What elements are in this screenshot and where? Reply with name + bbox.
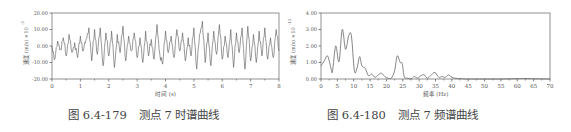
x-tick-label: 60 bbox=[514, 83, 521, 89]
caption-spectrum: 图 6.4-180测点 7 频谱曲线 bbox=[327, 106, 478, 122]
y-axis-label: 速度 (m/s) ×10 bbox=[22, 27, 30, 65]
x-tick-label: 7 bbox=[249, 83, 253, 89]
x-tick-label: 5 bbox=[336, 83, 340, 89]
caption-text: 测点 7 频谱曲线 bbox=[398, 108, 479, 122]
caption-time-history: 图 6.4-179测点 7 时谱曲线 bbox=[68, 106, 219, 122]
y-tick-label: 4.00 bbox=[306, 10, 317, 16]
data-line bbox=[52, 21, 279, 69]
x-tick-label: 2 bbox=[107, 83, 111, 89]
y-tick-label: 10.00 bbox=[34, 26, 48, 32]
x-tick-label: 3 bbox=[135, 83, 139, 89]
y-tick-label: 3.00 bbox=[306, 26, 317, 32]
spectrum-plot: 05101520253035404550556065700.001.002.00… bbox=[285, 0, 571, 100]
data-line bbox=[321, 29, 550, 79]
x-tick-label: 70 bbox=[547, 83, 554, 89]
caption-number: 图 6.4-179 bbox=[68, 108, 127, 122]
y-tick-label: -10.00 bbox=[32, 59, 48, 65]
spectrum-chart: 05101520253035404550556065700.001.002.00… bbox=[285, 0, 571, 100]
x-tick-label: 55 bbox=[497, 83, 504, 89]
plot-frame bbox=[321, 13, 550, 79]
y-tick-label: -20.00 bbox=[32, 76, 48, 82]
x-tick-label: 50 bbox=[481, 83, 488, 89]
x-tick-label: 4 bbox=[164, 83, 168, 89]
caption-number: 图 6.4-180 bbox=[327, 108, 386, 122]
x-tick-label: 30 bbox=[416, 83, 423, 89]
x-tick-label: 1 bbox=[79, 83, 83, 89]
x-tick-label: 10 bbox=[350, 83, 357, 89]
x-tick-label: 15 bbox=[367, 83, 374, 89]
time-history-plot: 012345678-20.00-10.000.0010.0020.00时间 (s… bbox=[0, 0, 290, 100]
x-tick-label: 65 bbox=[530, 83, 537, 89]
x-axis-label: 时间 (s) bbox=[155, 90, 176, 98]
y-axis-label: 速度 (m/s) ×10 bbox=[289, 27, 297, 65]
x-tick-label: 0 bbox=[319, 83, 323, 89]
x-tick-label: 45 bbox=[465, 83, 472, 89]
x-tick-label: 25 bbox=[399, 83, 406, 89]
y-axis-exponent: -3 bbox=[20, 21, 25, 25]
x-tick-label: 0 bbox=[50, 83, 54, 89]
x-tick-label: 35 bbox=[432, 83, 439, 89]
y-tick-label: 0.00 bbox=[37, 43, 48, 49]
x-tick-label: 6 bbox=[221, 83, 225, 89]
x-tick-label: 40 bbox=[448, 83, 455, 89]
caption-text: 测点 7 时谱曲线 bbox=[139, 108, 220, 122]
y-axis-exponent: -12 bbox=[287, 18, 292, 25]
x-tick-label: 8 bbox=[277, 83, 281, 89]
y-tick-label: 2.00 bbox=[306, 43, 317, 49]
y-tick-label: 0.00 bbox=[306, 76, 317, 82]
x-tick-label: 5 bbox=[192, 83, 196, 89]
time-history-chart: 012345678-20.00-10.000.0010.0020.00时间 (s… bbox=[0, 0, 290, 100]
x-tick-label: 20 bbox=[383, 83, 390, 89]
y-tick-label: 1.00 bbox=[306, 59, 317, 65]
y-tick-label: 20.00 bbox=[34, 10, 48, 16]
x-axis-label: 频率 (Hz) bbox=[423, 90, 449, 98]
